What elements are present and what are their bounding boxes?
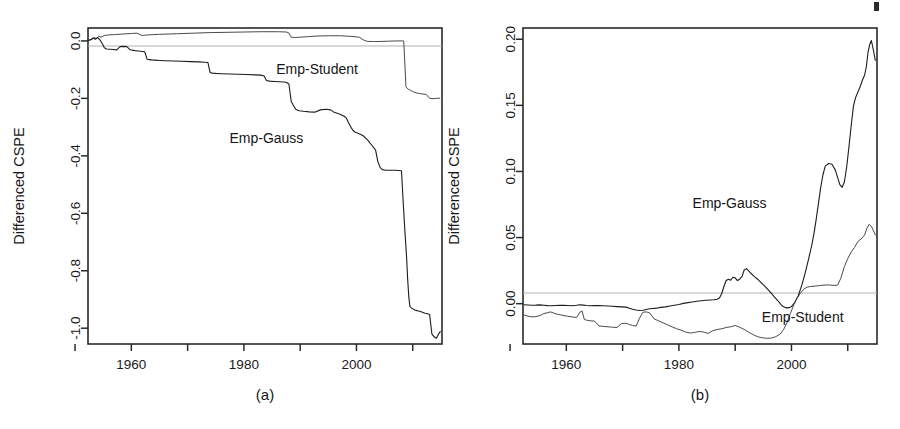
- series-annotation-emp-gauss: Emp-Gauss: [229, 130, 303, 146]
- y-tick-label: -0.8: [68, 259, 83, 282]
- y-tick-label: -1.0: [68, 317, 83, 340]
- series-annotation-emp-student: Emp-Student: [762, 309, 844, 325]
- x-tick-label: 2000: [341, 357, 371, 372]
- panel-b-caption: (b): [691, 386, 709, 403]
- x-tick-label: 1960: [551, 357, 581, 372]
- x-tick-label: 1980: [664, 357, 694, 372]
- panel-b-y-axis-title: Differenced CSPE: [446, 127, 462, 245]
- scan-artifact-mark: [874, 2, 879, 11]
- x-tick-label: 1960: [116, 357, 146, 372]
- panel-a-caption: (a): [256, 386, 274, 403]
- y-tick-label: -0.6: [68, 202, 83, 225]
- y-tick-label: 0.15: [503, 92, 518, 118]
- y-tick-label: 0.05: [503, 224, 518, 250]
- x-tick-label: 1980: [229, 357, 259, 372]
- x-tick-label: 2000: [776, 357, 806, 372]
- panel-a-y-axis-title: Differenced CSPE: [11, 127, 27, 245]
- y-tick-label: 0.00: [503, 291, 518, 317]
- y-tick-label: -0.2: [68, 87, 83, 110]
- y-tick-label: 0.0: [68, 32, 83, 51]
- figure-two-panel-differenced-cspe: 0.0-0.2-0.4-0.6-0.8-1.0 Differenced CSPE…: [0, 0, 900, 429]
- y-tick-label: 0.20: [503, 26, 518, 52]
- y-tick-label: -0.4: [68, 144, 83, 168]
- series-annotation-emp-student: Emp-Student: [276, 61, 358, 77]
- series-annotation-emp-gauss: Emp-Gauss: [693, 195, 767, 211]
- y-tick-label: 0.10: [503, 158, 518, 184]
